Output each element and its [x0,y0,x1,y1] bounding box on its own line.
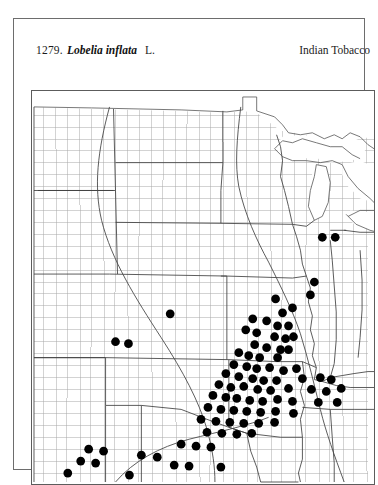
occurrence-dot [221,393,230,402]
occurrence-dot [177,440,186,449]
occurrence-dot [124,339,133,348]
occurrence-dot [289,409,298,418]
occurrence-dot [232,394,241,403]
occurrence-dot [248,374,257,383]
plate-caption: 1279. Lobelia inflata L. Indian Tobacco [28,38,378,68]
occurrence-dot [234,348,243,357]
water-mask [32,91,374,482]
occurrence-dot [197,415,206,424]
occurrence-dot [255,353,264,362]
occurrence-dot [125,471,134,480]
occurrence-dot [76,457,85,466]
occurrence-dot [273,353,282,362]
occurrence-dot [242,362,251,371]
occurrence-dot [63,469,72,478]
occurrence-dot [229,360,238,369]
occurrence-dot [270,418,279,427]
distribution-map [31,90,375,485]
occurrence-dot [333,398,342,407]
occurrence-dot [322,387,331,396]
occurrence-dot [204,403,213,412]
occurrence-dot [217,463,226,472]
occurrence-dot [217,405,226,414]
occurrence-dot [273,321,282,330]
occurrence-dot [298,374,307,383]
state-boundaries [34,107,374,482]
occurrence-dot [273,395,282,404]
occurrence-dot [248,314,257,323]
occurrence-dot [234,372,243,381]
occurrence-dot [225,418,234,427]
occurrence-dot [318,233,327,242]
occurrence-dot [185,462,194,471]
occurrence-dot [252,364,261,373]
occurrence-dot [281,334,290,343]
occurrence-dot [252,328,261,337]
occurrence-dot [245,396,254,405]
occurrence-dot [258,397,267,406]
plate-frame: 1279. Lobelia inflata L. Indian Tobacco [13,18,365,470]
occurrence-dot [229,406,238,415]
common-name: Indian Tobacco [299,44,370,56]
occurrence-dot [271,295,280,304]
occurrence-dot [272,376,281,385]
occurrence-dot [242,407,251,416]
occurrence-dot [166,309,175,318]
occurrence-dot [271,407,280,416]
scientific-name: Lobelia inflata [67,44,137,56]
occurrence-dot [207,443,216,452]
occurrence-dot [306,291,315,300]
occurrence-dot [279,366,288,375]
occurrence-dot [316,373,325,382]
occurrence-dot [91,459,100,468]
occurrence-dot [247,429,256,438]
plate-number: 1279. [36,44,63,56]
occurrence-dot [284,345,293,354]
occurrence-dot [310,278,319,287]
occurrence-dot [292,364,301,373]
occurrence-dot [265,363,274,372]
occurrence-dot [307,385,316,394]
occurrence-dot [276,345,285,354]
occurrence-dot [253,385,262,394]
occurrence-dot [203,428,212,437]
occurrence-dot [212,417,221,426]
occurrence-dot [288,397,297,406]
occurrence-dot [337,384,346,393]
occurrence-dot [262,343,271,352]
occurrence-dot [209,391,218,400]
occurrence-dot [232,430,241,439]
occurrence-dot [250,340,259,349]
occurrence-dot [270,332,279,341]
occurrence-dot [218,429,227,438]
occurrence-dot [278,308,287,317]
occurrence-dot [266,386,275,395]
occurrence-dot [241,325,250,334]
occurrence-dot [254,419,263,428]
occurrence-dot [331,233,340,242]
occurrence-dot [256,408,265,417]
occurrence-dot [244,351,253,360]
occurrence-dot [259,376,268,385]
occurrence-dot [170,461,179,470]
occurrence-dot [288,304,297,313]
occurrence-dot [192,442,201,451]
occurrence-dot [111,337,120,346]
occurrence-dot [215,380,224,389]
authority-abbreviation: L. [145,44,155,56]
occurrence-dot [221,369,230,378]
occurrence-dot [284,384,293,393]
occurrence-dot [226,383,235,392]
occurrence-dot [262,316,271,325]
occurrence-dot [239,382,248,391]
occurrence-dot [314,398,323,407]
occurrence-dot [239,419,248,428]
occurrence-dot [99,447,108,456]
occurrence-dot [137,451,146,460]
distribution-map-svg [32,91,374,484]
occurrence-dot [84,445,93,454]
occurrence-dot [153,453,162,462]
occurrence-dot [289,332,298,341]
occurrence-dot [327,375,336,384]
